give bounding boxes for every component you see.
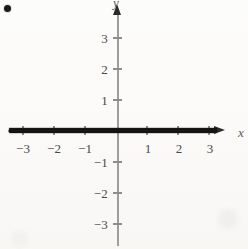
- y-tick--3: [113, 223, 122, 225]
- y-tick-1: [113, 99, 122, 101]
- x-axis-label: x: [238, 126, 244, 139]
- x-tick-label--1: −1: [78, 142, 92, 155]
- y-tick-3: [113, 37, 122, 39]
- y-axis-label: y: [113, 0, 119, 9]
- y-tick-label--1: −1: [86, 156, 108, 169]
- x-tick-label-3: 3: [207, 142, 214, 155]
- y-tick-label-1: 1: [92, 94, 108, 107]
- x-tick-label-1: 1: [145, 142, 152, 155]
- y-tick--1: [113, 161, 122, 163]
- coordinate-plane-figure: −3 −2 −1 1 2 3 3 2 1 −1 −2 −3 x y: [0, 0, 248, 249]
- y-tick-label--3: −3: [86, 218, 108, 231]
- y-tick--2: [113, 192, 122, 194]
- x-tick-label--2: −2: [47, 142, 61, 155]
- y-tick-label-2: 2: [92, 63, 108, 76]
- y-tick-2: [113, 68, 122, 70]
- plot-line-y-equals-0: [9, 128, 217, 132]
- y-tick-label--2: −2: [86, 187, 108, 200]
- y-tick-label-3: 3: [92, 32, 108, 45]
- x-tick-label--3: −3: [16, 142, 30, 155]
- x-tick-label-2: 2: [176, 142, 183, 155]
- bullet-dot-icon: [4, 5, 11, 12]
